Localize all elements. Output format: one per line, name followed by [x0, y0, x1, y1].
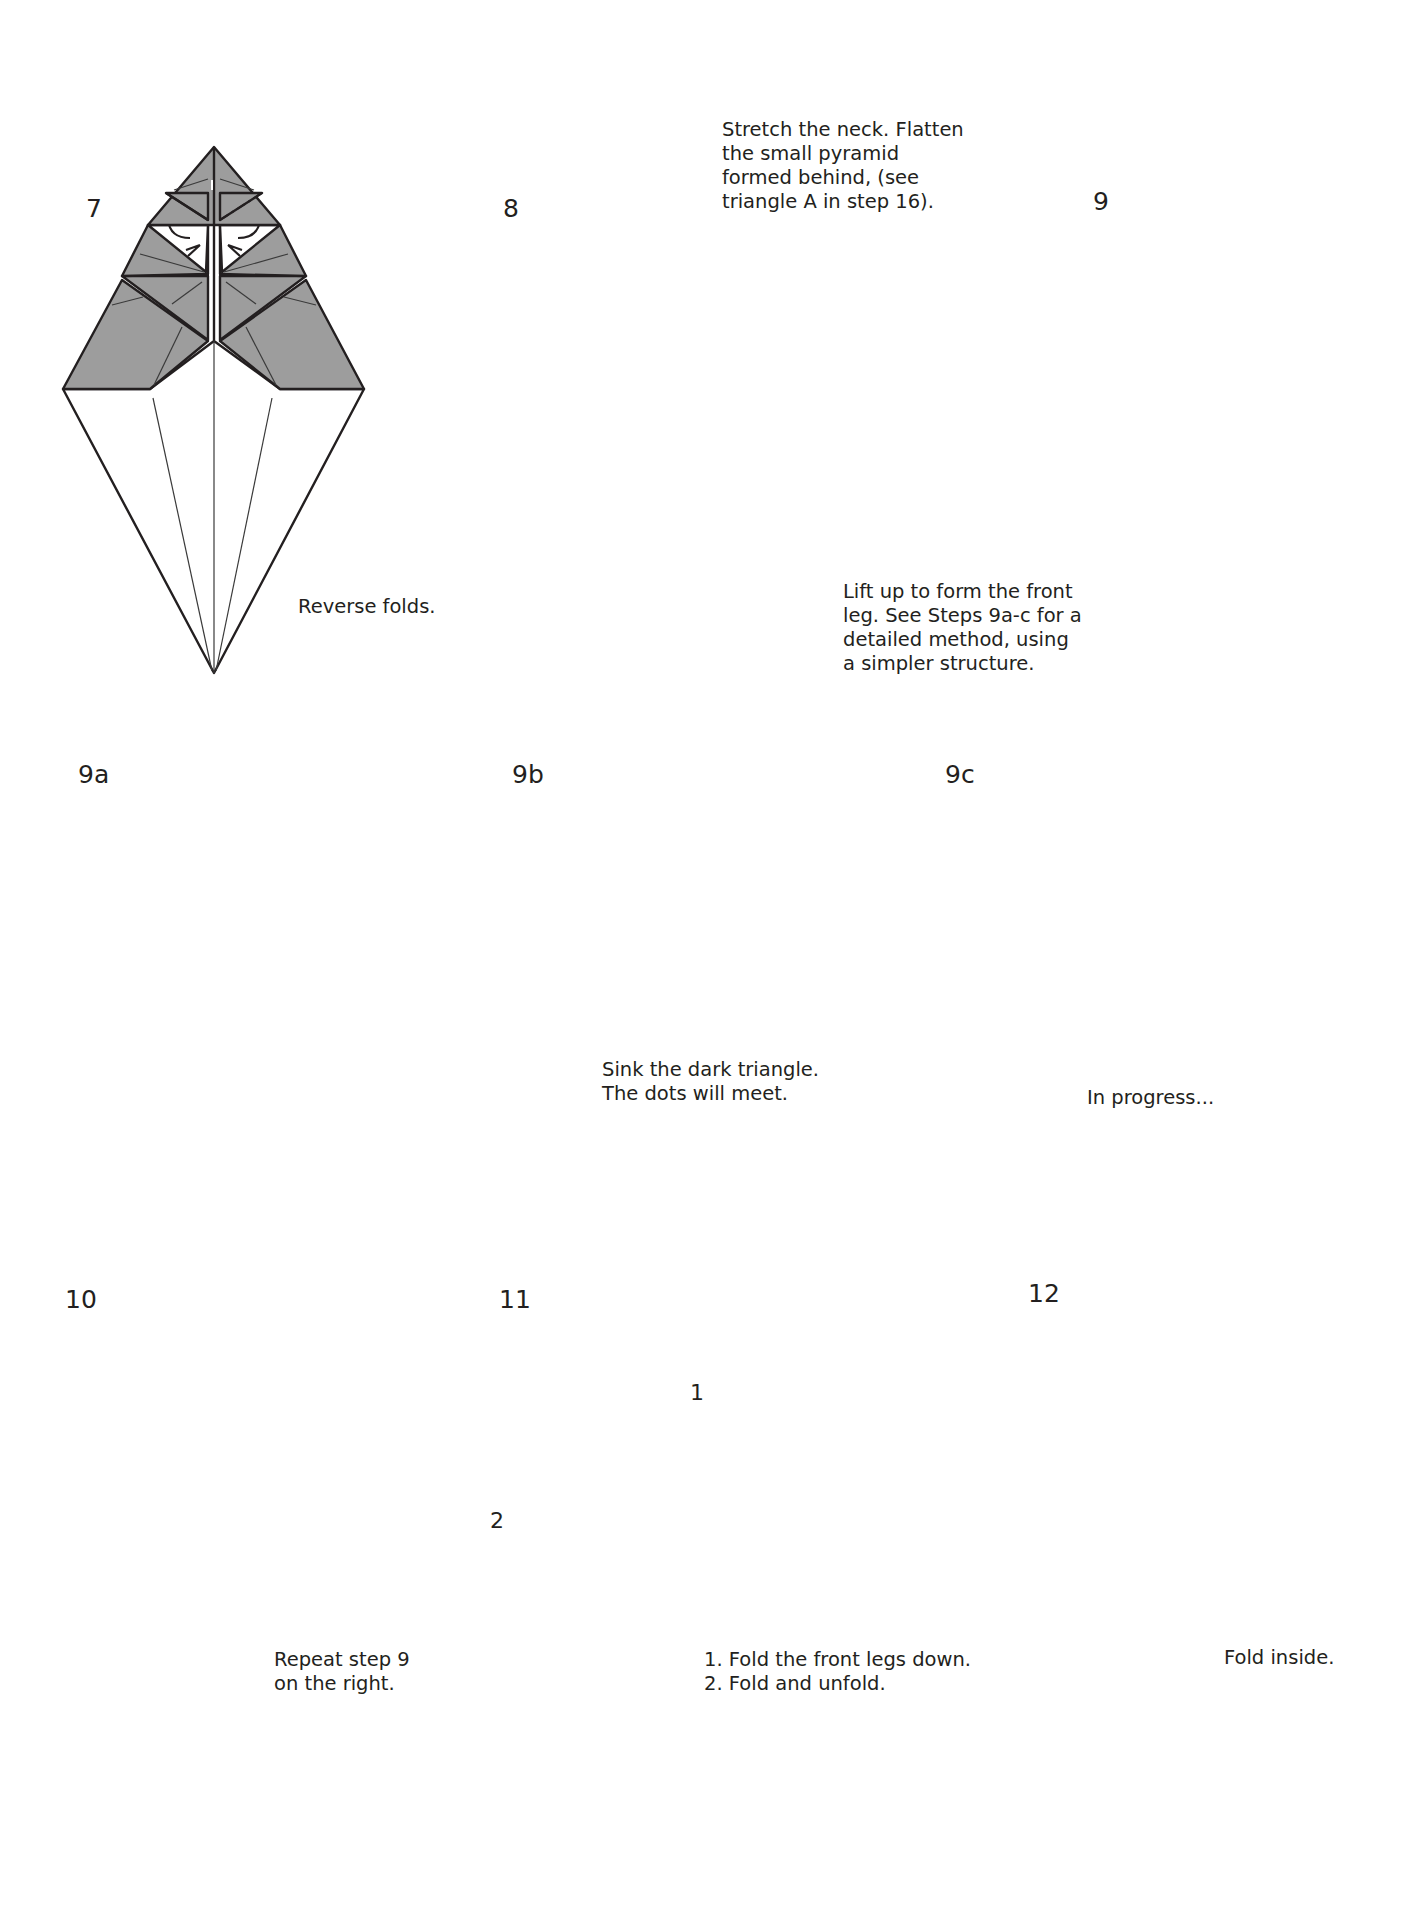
fold-marker-1: 1: [690, 1380, 704, 1405]
caption-step-12: Fold inside.: [1224, 1646, 1334, 1670]
step-number-9c: 9c: [945, 760, 975, 789]
caption-step-9: Lift up to form the front leg. See Steps…: [843, 580, 1082, 676]
fold-marker-2: 2: [490, 1508, 504, 1533]
step-number-9b: 9b: [512, 760, 544, 789]
caption-step-9b: Sink the dark triangle. The dots will me…: [602, 1058, 819, 1106]
diagram-canvas: [0, 0, 1420, 1927]
step-number-11: 11: [499, 1285, 531, 1314]
caption-step-9c: In progress...: [1087, 1086, 1214, 1110]
step-number-12: 12: [1028, 1279, 1060, 1308]
caption-step-11: 1. Fold the front legs down. 2. Fold and…: [704, 1648, 971, 1696]
step-number-10: 10: [65, 1285, 97, 1314]
caption-step-8: Stretch the neck. Flatten the small pyra…: [722, 118, 964, 214]
step-number-9a: 9a: [78, 760, 109, 789]
caption-step-7: Reverse folds.: [298, 595, 436, 619]
step-number-7: 7: [86, 194, 102, 223]
step-number-8: 8: [503, 194, 519, 223]
caption-step-10: Repeat step 9 on the right.: [274, 1648, 410, 1696]
step-number-9: 9: [1093, 187, 1109, 216]
